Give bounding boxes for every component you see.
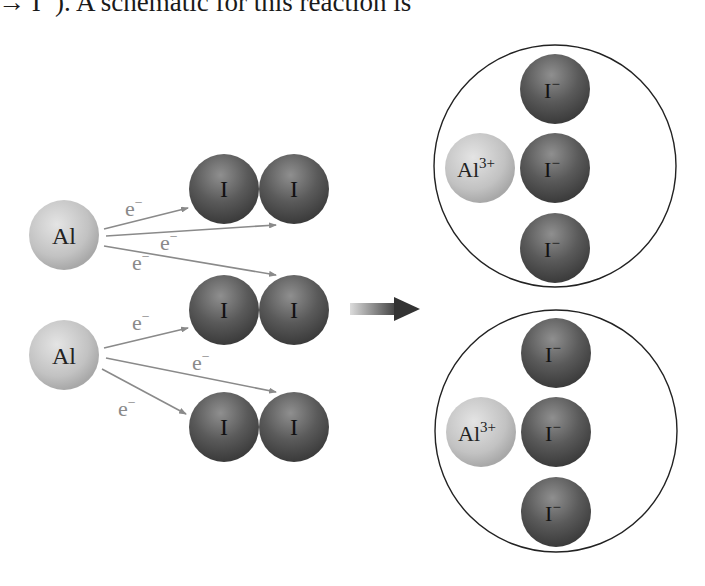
electron-label: e− — [118, 395, 136, 421]
iodine-atom-label: I — [220, 414, 228, 440]
iodine-molecule-1: I I — [189, 154, 329, 224]
electron-label: e− — [132, 249, 150, 275]
electron-label: e− — [192, 349, 210, 375]
product-unit-1: Al3+ I− I− I− — [434, 45, 676, 287]
iodine-atom-label: I — [290, 176, 298, 202]
electron-label: e− — [132, 309, 150, 335]
reaction-diagram: Al Al I I I I I I e− e− e− — [0, 0, 705, 586]
al-atom-1-label: Al — [52, 223, 76, 249]
iodine-molecule-3: I I — [189, 392, 329, 462]
iodine-molecule-2: I I — [189, 275, 329, 345]
reaction-arrow-icon — [350, 297, 420, 321]
al-atom-2-label: Al — [52, 343, 76, 369]
al-atom-2: Al — [29, 320, 99, 390]
iodine-atom-label: I — [220, 297, 228, 323]
iodine-atom-label: I — [290, 297, 298, 323]
electron-label: e− — [160, 229, 178, 255]
iodine-atom-label: I — [220, 176, 228, 202]
al-atom-1: Al — [29, 200, 99, 270]
product-unit-2: Al3+ I− I− I− — [435, 310, 677, 552]
electron-label: e− — [125, 195, 143, 221]
iodine-atom-label: I — [290, 414, 298, 440]
